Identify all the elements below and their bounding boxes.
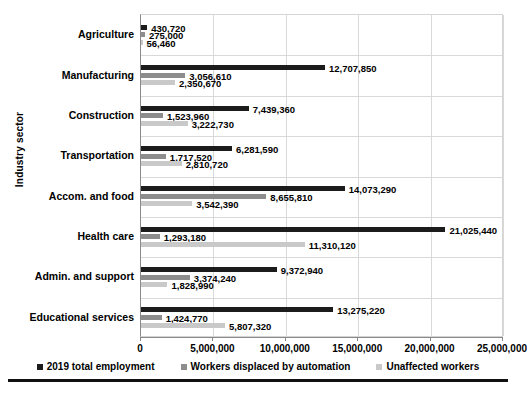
bar-value-label: 1,828,990 — [171, 281, 213, 290]
bar — [141, 32, 145, 37]
x-axis-tick-label: 15,000,000 — [332, 343, 382, 354]
legend-swatch-icon — [376, 364, 382, 370]
bar — [141, 282, 167, 287]
bar-value-label: 11,310,120 — [309, 241, 356, 250]
bar-value-label: 56,460 — [147, 39, 176, 48]
bar — [141, 315, 162, 320]
x-axis-tick-label: 10,000,000 — [260, 343, 310, 354]
bar — [141, 121, 188, 126]
bar — [141, 194, 266, 199]
legend-swatch-icon — [181, 364, 187, 370]
bar-value-label: 6,281,590 — [236, 145, 278, 154]
bar — [141, 146, 232, 151]
x-axis-tick-label: 0 — [137, 343, 143, 354]
bar — [141, 201, 192, 206]
bar — [141, 227, 445, 232]
bar-value-label: 7,439,360 — [253, 105, 295, 114]
legend-item[interactable]: Unaffected workers — [376, 361, 479, 372]
bar — [141, 161, 182, 166]
legend-label: Workers displaced by automation — [191, 361, 351, 372]
x-axis-tick-mark — [502, 337, 503, 341]
x-axis-tick-label: 5,000,000 — [190, 343, 235, 354]
y-axis-label: Educational services — [12, 311, 134, 323]
x-axis-tick-label: 20,000,000 — [405, 343, 455, 354]
bar-value-label: 14,073,290 — [349, 185, 397, 194]
gridline-vertical — [431, 15, 432, 336]
bar — [141, 154, 166, 159]
bar — [141, 307, 333, 312]
bar — [141, 106, 249, 111]
gridline-horizontal — [141, 96, 502, 97]
x-axis-tick-mark — [285, 337, 286, 341]
bottom-divider — [8, 379, 508, 382]
y-axis-label: Health care — [12, 230, 134, 242]
y-axis-label: Manufacturing — [12, 69, 134, 81]
y-axis-label: Construction — [12, 109, 134, 121]
gridline-horizontal — [141, 136, 502, 137]
bar — [141, 234, 160, 239]
bar-value-label: 13,275,220 — [337, 306, 385, 315]
gridline-horizontal — [141, 298, 502, 299]
gridline-horizontal — [141, 55, 502, 56]
x-axis-tick-label: 25,000,000 — [477, 343, 527, 354]
gridline-horizontal — [141, 257, 502, 258]
bar — [141, 323, 225, 328]
chart-legend: 2019 total employmentWorkers displaced b… — [0, 361, 516, 372]
bar-value-label: 2,810,720 — [186, 160, 228, 169]
bar — [141, 113, 163, 118]
bar — [141, 275, 190, 280]
bar-value-label: 12,707,850 — [329, 64, 377, 73]
y-axis-category-labels: AgricultureManufacturingConstructionTran… — [12, 14, 138, 337]
legend-swatch-icon — [37, 364, 43, 370]
bar-value-label: 9,372,940 — [281, 266, 323, 275]
legend-label: Unaffected workers — [386, 361, 479, 372]
x-axis-tick-mark — [357, 337, 358, 341]
x-axis-line — [140, 337, 503, 338]
y-axis-label: Agriculture — [12, 28, 134, 40]
bar — [141, 25, 147, 30]
x-axis-tick-mark — [430, 337, 431, 341]
bar — [141, 40, 143, 45]
bar — [141, 186, 345, 191]
bar-value-label: 8,655,810 — [270, 193, 312, 202]
gridline-horizontal — [141, 177, 502, 178]
legend-item[interactable]: Workers displaced by automation — [181, 361, 351, 372]
legend-label: 2019 total employment — [47, 361, 155, 372]
plot-area: 430,720275,00056,46012,707,8503,056,6102… — [140, 14, 503, 337]
bar-value-label: 3,542,390 — [196, 200, 238, 209]
x-axis-tick-mark — [140, 337, 141, 341]
bar-value-label: 5,807,320 — [229, 322, 271, 331]
bar-value-label: 21,025,440 — [449, 226, 497, 235]
bar — [141, 242, 305, 247]
legend-item[interactable]: 2019 total employment — [37, 361, 155, 372]
y-axis-label: Accom. and food — [12, 190, 134, 202]
gridline-horizontal — [141, 217, 502, 218]
bar — [141, 80, 175, 85]
gridline-vertical — [286, 15, 287, 336]
bar-value-label: 2,350,670 — [179, 79, 221, 88]
bar — [141, 65, 325, 70]
y-axis-label: Admin. and support — [12, 270, 134, 282]
bar — [141, 73, 185, 78]
gridline-vertical — [503, 15, 504, 336]
x-axis-tick-mark — [212, 337, 213, 341]
bar-value-label: 3,222,730 — [192, 120, 234, 129]
y-axis-label: Transportation — [12, 149, 134, 161]
bar — [141, 267, 277, 272]
